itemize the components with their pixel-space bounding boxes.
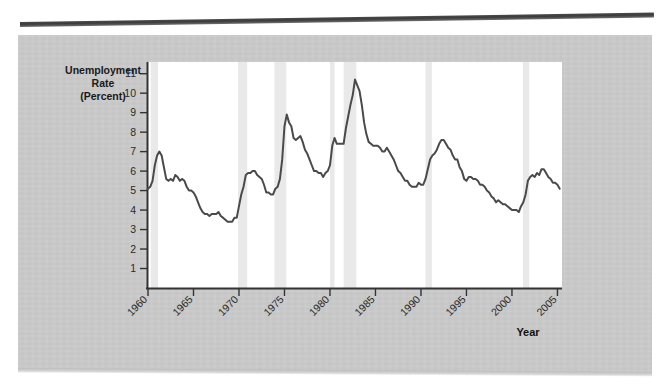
x-axis-ticks: 1960196519701975198019851990199520002005 [124, 288, 559, 318]
x-axis-tick-label: 1990 [397, 293, 422, 318]
x-axis: 1960196519701975198019851990199520002005 [124, 288, 562, 318]
y-axis-tick-label: 3 [130, 223, 136, 235]
y-axis-tick-label: 7 [130, 145, 136, 157]
y-axis-title-line1: Unemployment [65, 64, 141, 76]
y-axis-tick-label: 5 [130, 184, 136, 196]
y-axis-tick-label: 9 [130, 106, 136, 118]
screenshot-page: 1234567891011 19601965197019751980198519… [0, 0, 668, 390]
x-axis-tick-label: 1980 [306, 293, 331, 318]
y-axis-tick-label: 2 [130, 243, 136, 255]
y-axis-title-line2: Rate [92, 77, 115, 89]
y-axis-tick-label: 10 [124, 87, 136, 99]
y-axis-tick-label: 1 [130, 262, 136, 274]
x-axis-tick-label: 1965 [170, 293, 195, 318]
x-axis-tick-label: 1970 [215, 293, 240, 318]
y-axis-title-line3: (Percent) [80, 90, 126, 102]
y-axis: 1234567891011 [124, 62, 148, 289]
recession-band [344, 62, 357, 288]
x-axis-title: Year [516, 326, 540, 338]
recession-band [523, 62, 529, 288]
x-axis-tick-label: 1985 [352, 293, 377, 318]
y-axis-tick-label: 6 [130, 165, 136, 177]
x-axis-tick-label: 1975 [261, 293, 286, 318]
y-axis-tick-label: 4 [130, 204, 136, 216]
y-axis-ticks: 1234567891011 [124, 67, 148, 274]
y-axis-tick-label: 8 [130, 126, 136, 138]
x-axis-tick-label: 2005 [534, 293, 559, 318]
x-axis-tick-label: 1960 [124, 293, 149, 318]
unemployment-rate-line-chart: 1234567891011 19601965197019751980198519… [0, 0, 668, 390]
x-axis-tick-label: 2000 [488, 293, 513, 318]
recession-band [330, 62, 335, 288]
x-axis-tick-label: 1995 [443, 293, 468, 318]
